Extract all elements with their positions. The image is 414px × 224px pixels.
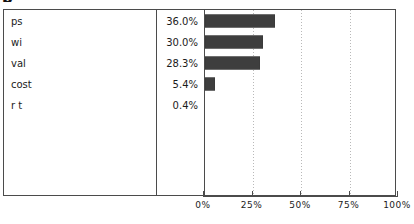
bar <box>205 77 215 90</box>
row-percent-value: 5.4% <box>156 78 202 89</box>
x-axis-tick <box>203 191 204 197</box>
row-category-label: r t <box>11 99 22 110</box>
row-category-label: val <box>11 57 26 68</box>
row-percent-value: 28.3% <box>156 57 202 68</box>
x-axis-tick <box>300 191 301 197</box>
row-bar-zone <box>205 10 395 31</box>
row-category-label: cost <box>11 78 32 89</box>
bar <box>205 35 263 48</box>
row-category-label: wi <box>11 36 22 47</box>
row-bar-zone <box>205 94 395 115</box>
row-percent-value: 30.0% <box>156 36 202 47</box>
x-axis-tick-label: 25% <box>241 200 263 211</box>
row-category-label: ps <box>11 15 23 26</box>
table-row: ps36.0% <box>4 10 395 31</box>
x-axis-tick <box>397 191 398 197</box>
row-percent-value: 36.0% <box>156 15 202 26</box>
x-axis-tick-label: 100% <box>383 200 411 211</box>
x-axis-tick <box>349 191 350 197</box>
table-row: cost5.4% <box>4 73 395 94</box>
table-body: ps36.0%wi30.0%val28.3%cost5.4%r t0.4% <box>4 10 395 115</box>
table-row: wi30.0% <box>4 31 395 52</box>
table-row: r t0.4% <box>4 94 395 115</box>
row-percent-value: 0.4% <box>156 99 202 110</box>
row-bar-zone <box>205 52 395 73</box>
x-axis-tick-label: 0% <box>195 200 210 211</box>
x-axis-tick <box>252 191 253 197</box>
clipped-panel-label: b <box>2 0 13 2</box>
row-bar-zone <box>205 31 395 52</box>
x-axis-tick-label: 75% <box>338 200 360 211</box>
bar <box>205 56 260 69</box>
x-axis-tick-label: 50% <box>289 200 311 211</box>
table-row: val28.3% <box>4 52 395 73</box>
row-bar-zone <box>205 73 395 94</box>
bar <box>205 14 275 27</box>
x-axis: 0%25%50%75%100% <box>3 196 396 224</box>
chart-table-frame: ps36.0%wi30.0%val28.3%cost5.4%r t0.4% <box>3 9 396 196</box>
